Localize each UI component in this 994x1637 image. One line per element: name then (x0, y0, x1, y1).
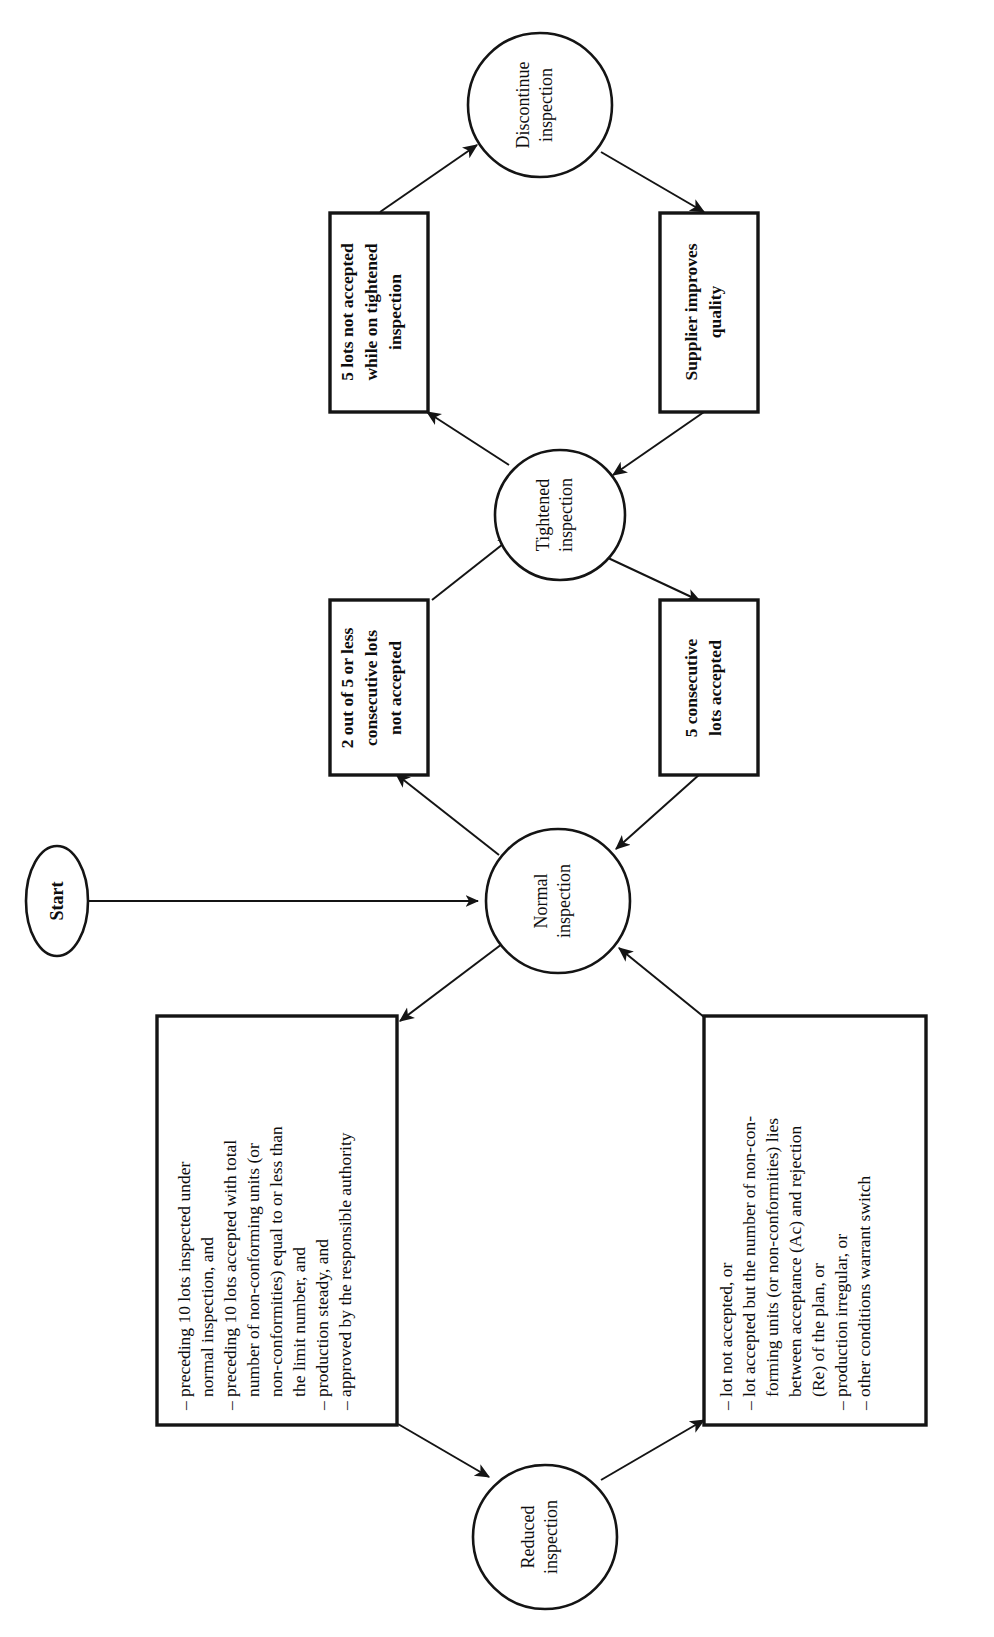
flowchart-canvas: Start Normal inspection Tightened inspec… (0, 0, 994, 1637)
cond-supplier-improves-quality-line2: quality (705, 285, 725, 338)
node-cond-five-consecutive-lots-accepted[interactable]: 5 consecutive lots accepted (660, 600, 758, 775)
tightened-inspection-label-line2: inspection (556, 478, 576, 552)
cond-supplier-improves-quality-line1: Supplier improves (681, 243, 701, 380)
node-discontinue-inspection[interactable]: Discontinue inspection (468, 33, 612, 177)
edge-tightened-to-cond-five-consecutive-accepted (606, 557, 700, 601)
node-cond-supplier-improves-quality[interactable]: Supplier improves quality (660, 213, 758, 412)
node-reduced-inspection[interactable]: Reduced inspection (473, 1465, 617, 1609)
edge-cond-five-not-accepted-to-discontinue (380, 145, 477, 212)
cond-switch-to-reduced-line-8: – approved by the responsible authority (335, 1132, 355, 1411)
cond-two-of-five-not-accepted-line2: consecutive lots (361, 630, 381, 746)
edge-cond-two-of-five-to-tightened (432, 537, 512, 600)
cond-switch-to-reduced-line-4: number of non-conforming units (or (243, 1143, 263, 1410)
cond-switch-from-reduced-line-5: (Re) of the plan, or (808, 1263, 828, 1410)
edge-reduced-to-cond-from-reduced (601, 1420, 704, 1480)
cond-five-lots-not-accepted-line3: inspection (385, 274, 405, 350)
cond-five-consecutive-lots-accepted-line2: lots accepted (705, 640, 725, 736)
cond-switch-to-reduced-line-3: – preceding 10 lots accepted with total (220, 1140, 240, 1411)
node-cond-two-of-five-not-accepted[interactable]: 2 out of 5 or less consecutive lots not … (330, 600, 428, 775)
normal-inspection-label-line2: inspection (554, 864, 574, 938)
edge-normal-to-cond-to-reduced (400, 944, 502, 1021)
tightened-inspection-label-line1: Tightened (533, 479, 553, 551)
cond-switch-to-reduced-line-2: normal inspection, and (197, 1237, 217, 1410)
node-cond-switch-from-reduced[interactable]: – lot not accepted, or – lot accepted bu… (704, 1016, 926, 1425)
edge-cond-from-reduced-to-normal (619, 948, 704, 1017)
cond-five-lots-not-accepted-line1: 5 lots not accepted (337, 243, 357, 381)
edge-tightened-to-cond-five-not-accepted (427, 412, 509, 465)
cond-switch-to-reduced-line-5: non-conformities) equal to or less than (266, 1126, 286, 1410)
cond-switch-from-reduced-line-3: forming units (or non-conformities) lies (762, 1118, 782, 1410)
node-start[interactable]: Start (26, 846, 88, 956)
edge-discontinue-to-cond-supplier-improves (601, 152, 704, 212)
reduced-inspection-label-line1: Reduced (518, 1506, 538, 1569)
discontinue-inspection-label-line2: inspection (536, 68, 556, 142)
node-normal-inspection[interactable]: Normal inspection (486, 829, 630, 973)
discontinue-inspection-label-line1: Discontinue (513, 62, 533, 149)
reduced-inspection-label-line2: inspection (541, 1500, 561, 1574)
cond-switch-to-reduced-line-6: the limit number, and (289, 1247, 309, 1410)
edge-cond-to-reduced-to-reduced (398, 1424, 489, 1477)
cond-switch-from-reduced-line-6: – production irregular, or (831, 1234, 851, 1411)
cond-switch-from-reduced-line-7: – other conditions warrant switch (854, 1175, 874, 1411)
cond-switch-from-reduced-line-4: between acceptance (Ac) and rejection (785, 1126, 805, 1410)
cond-switch-to-reduced-line-7: – production steady, and (312, 1239, 332, 1411)
cond-two-of-five-not-accepted-line1: 2 out of 5 or less (337, 627, 357, 748)
cond-switch-from-reduced-line-2: – lot accepted but the number of non-con… (739, 1116, 759, 1411)
edge-normal-to-cond-two-of-five (396, 774, 499, 855)
start-label: Start (47, 882, 67, 921)
normal-inspection-label-line1: Normal (531, 874, 551, 929)
cond-five-lots-not-accepted-line2: while on tightened (361, 243, 381, 380)
node-cond-switch-to-reduced[interactable]: – preceding 10 lots inspected under norm… (157, 1016, 397, 1425)
edge-cond-supplier-improves-to-tightened (613, 412, 704, 475)
node-cond-five-lots-not-accepted[interactable]: 5 lots not accepted while on tightened i… (330, 213, 428, 412)
cond-switch-to-reduced-line-1: – preceding 10 lots inspected under (174, 1161, 194, 1411)
node-tightened-inspection[interactable]: Tightened inspection (495, 450, 625, 580)
cond-five-consecutive-lots-accepted-line1: 5 consecutive (681, 638, 701, 737)
cond-switch-from-reduced-line-1: – lot not accepted, or (716, 1263, 736, 1411)
edge-cond-five-consecutive-accepted-to-normal (616, 774, 700, 849)
diagram-page: Start Normal inspection Tightened inspec… (0, 0, 994, 1637)
cond-two-of-five-not-accepted-line3: not accepted (385, 641, 405, 735)
